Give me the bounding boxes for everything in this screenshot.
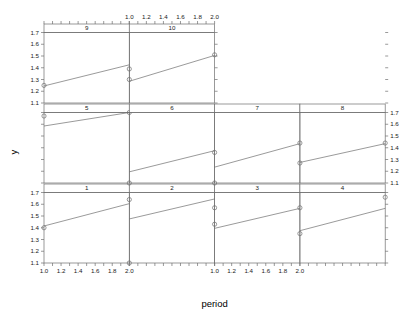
y-tick-label-r1-1: 1.2: [30, 87, 39, 94]
x-axis-title: period: [201, 298, 227, 309]
y-tick-label-r3-5: 1.6: [30, 200, 39, 207]
fit-line-6: [129, 151, 214, 172]
y-tick-label-r3-6: 1.7: [30, 189, 39, 196]
panel-frame-4: [300, 193, 385, 264]
y-tick-label-r3-3: 1.4: [30, 224, 39, 231]
y-tick-label-r1-0: 1.1: [30, 99, 39, 106]
x-tick-label-bottom-c3-2: 1.4: [244, 267, 253, 274]
fit-line-9: [44, 65, 129, 86]
y-tick-label-r1-3: 1.4: [30, 64, 39, 71]
y-tick-label-r2-1: 1.2: [390, 167, 399, 174]
x-tick-label-bottom-c3-4: 1.8: [279, 267, 288, 274]
fit-line-3: [215, 208, 300, 228]
panel-frame-7: [215, 113, 300, 184]
x-tick-label-top-2: 1.4: [159, 13, 168, 20]
panel-7: 7: [213, 104, 303, 185]
y-tick-label-r3-2: 1.3: [30, 236, 39, 243]
panel-frame-3: [215, 193, 300, 264]
panel-strip-label-1: 1: [85, 184, 89, 191]
panel-3: 3: [213, 184, 303, 263]
fit-line-10: [129, 55, 214, 81]
x-tick-label-bottom-c1-3: 1.6: [91, 267, 100, 274]
panel-frame-8: [300, 113, 385, 184]
x-tick-label-top-5: 2.0: [210, 13, 219, 20]
x-tick-label-top-1: 1.2: [142, 13, 151, 20]
y-tick-label-r2-4: 1.5: [390, 132, 399, 139]
x-tick-label-bottom-c1-5: 2.0: [125, 267, 134, 274]
panel-6: 6: [127, 104, 216, 185]
y-tick-label-r2-0: 1.1: [390, 179, 399, 186]
y-tick-label-r1-4: 1.5: [30, 52, 39, 59]
panel-frame-1: [44, 193, 129, 264]
panel-5: 5: [42, 104, 132, 183]
fit-line-5: [44, 113, 129, 127]
x-tick-label-bottom-c3-0: 1.0: [210, 267, 219, 274]
panel-frame-10: [129, 33, 214, 104]
y-tick-label-r3-0: 1.1: [30, 259, 39, 266]
panel-4: 4: [298, 184, 388, 263]
x-tick-label-top-0: 1.0: [125, 13, 134, 20]
panel-strip-label-9: 9: [85, 24, 89, 31]
panel-2: 2: [127, 184, 216, 265]
x-tick-label-top-3: 1.6: [176, 13, 185, 20]
x-tick-label-bottom-c1-0: 1.0: [40, 267, 49, 274]
panel-strip-label-3: 3: [256, 184, 260, 191]
x-tick-label-bottom-c1-1: 1.2: [57, 267, 66, 274]
x-tick-label-bottom-c3-1: 1.2: [227, 267, 236, 274]
panel-strip-label-8: 8: [341, 104, 345, 111]
fit-line-1: [44, 204, 129, 226]
panel-strip-label-6: 6: [170, 104, 174, 111]
panel-frame-5: [44, 113, 129, 184]
lattice-trellis-chart: 123456789101.11.21.31.41.51.61.71.11.21.…: [0, 0, 410, 325]
x-tick-label-top-4: 1.8: [193, 13, 202, 20]
panel-strip-label-2: 2: [170, 184, 174, 191]
fit-line-2: [129, 199, 214, 219]
panel-strip-label-10: 10: [169, 24, 176, 31]
y-tick-label-r2-5: 1.6: [390, 120, 399, 127]
x-tick-label-bottom-c3-5: 2.0: [296, 267, 305, 274]
trellis-plot-root: 123456789101.11.21.31.41.51.61.71.11.21.…: [0, 0, 410, 325]
panel-strip-label-4: 4: [341, 184, 345, 191]
y-tick-label-r3-1: 1.2: [30, 247, 39, 254]
panel-8: 8: [298, 104, 388, 183]
y-tick-label-r2-2: 1.3: [390, 156, 399, 163]
panel-9: 9: [42, 24, 132, 103]
panel-frame-6: [129, 113, 214, 184]
x-tick-label-bottom-c1-2: 1.4: [74, 267, 83, 274]
fit-line-4: [300, 208, 385, 230]
y-axis-title: y: [8, 149, 19, 154]
y-tick-label-r3-4: 1.5: [30, 212, 39, 219]
fit-line-8: [300, 144, 385, 163]
panel-strip-label-5: 5: [85, 104, 89, 111]
y-tick-label-r1-2: 1.3: [30, 76, 39, 83]
panel-frame-2: [129, 193, 214, 264]
panel-10: 10: [127, 24, 216, 103]
y-tick-label-r2-3: 1.4: [390, 144, 399, 151]
y-tick-label-r2-6: 1.7: [390, 109, 399, 116]
panel-strip-label-7: 7: [256, 104, 260, 111]
fit-line-7: [215, 144, 300, 168]
y-tick-label-r1-6: 1.7: [30, 29, 39, 36]
y-tick-label-r1-5: 1.6: [30, 40, 39, 47]
x-tick-label-bottom-c1-4: 1.8: [108, 267, 117, 274]
x-tick-label-bottom-c3-3: 1.6: [261, 267, 270, 274]
panel-1: 1: [42, 184, 132, 263]
